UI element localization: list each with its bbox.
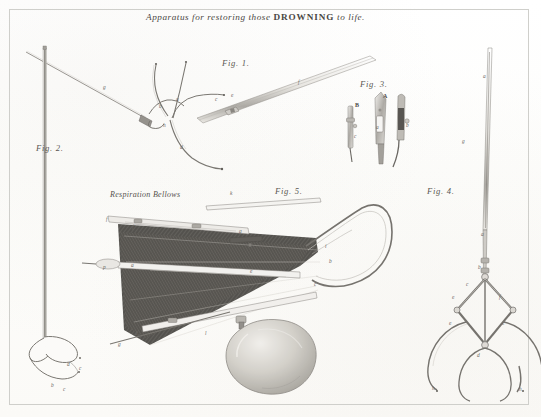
key-fig3-c: c bbox=[354, 133, 357, 139]
key-fig4-a2: a bbox=[481, 231, 484, 237]
fig2-artwork bbox=[29, 46, 81, 379]
key-fig4-e3: e bbox=[502, 320, 505, 326]
key-fig4-h2: h bbox=[519, 386, 522, 392]
key-fig5-f2: f bbox=[132, 224, 134, 230]
key-fig4-h1: h bbox=[432, 385, 435, 391]
plate-title-prefix: Apparatus for restoring those bbox=[146, 12, 273, 22]
figure-label-fig3: Fig. 3. bbox=[360, 79, 388, 89]
key-fig5-f1: f bbox=[106, 216, 108, 222]
key-fig2-d: d bbox=[67, 361, 70, 367]
plate-title-emphasis: DROWNING bbox=[273, 12, 334, 22]
key-fig1-e: e bbox=[231, 92, 234, 98]
key-fig4-c: c bbox=[466, 281, 469, 287]
key-fig3-B: B bbox=[355, 102, 359, 108]
key-fig4-b: b bbox=[478, 264, 481, 270]
key-fig2-c1: c bbox=[79, 365, 82, 371]
key-fig5-l: l bbox=[205, 330, 207, 336]
key-fig1-c: c bbox=[215, 96, 218, 102]
key-fig1-g: g bbox=[103, 84, 106, 90]
key-fig1-h: h bbox=[163, 122, 166, 128]
key-fig5-p: p bbox=[103, 264, 106, 270]
key-fig4-f: f bbox=[499, 294, 501, 300]
key-fig4-e1: e bbox=[452, 294, 455, 300]
plate-title-suffix: to life. bbox=[334, 12, 365, 22]
key-fig4-d: d bbox=[477, 352, 480, 358]
figure-label-fig5: Fig. 5. bbox=[275, 186, 303, 196]
key-fig4-a1: a bbox=[483, 73, 486, 79]
key-fig2-b: b bbox=[51, 382, 54, 388]
figure-label-fig2: Fig. 2. bbox=[36, 143, 64, 153]
key-fig5-e: e bbox=[250, 268, 253, 274]
plate-title: Apparatus for restoring those DROWNING t… bbox=[146, 12, 365, 22]
figure-label-fig4: Fig. 4. bbox=[427, 186, 455, 196]
key-fig1-b: b bbox=[159, 103, 162, 109]
key-fig3-a: a bbox=[376, 124, 379, 130]
key-fig2-c2: c bbox=[63, 386, 66, 392]
key-fig5-a: a bbox=[131, 262, 134, 268]
key-fig5-i: i bbox=[325, 243, 327, 249]
fig5-artwork bbox=[82, 198, 392, 394]
key-fig1-d: d bbox=[180, 144, 183, 150]
key-fig5-g2: g bbox=[118, 341, 121, 347]
key-fig5-c: c bbox=[314, 281, 317, 287]
key-fig1-a: a bbox=[176, 96, 179, 102]
key-fig4-e2: e bbox=[449, 320, 452, 326]
plate-artwork bbox=[0, 0, 541, 417]
key-fig5-d: d bbox=[135, 330, 138, 336]
caption-respiration-bellows: Respiration Bellows bbox=[110, 190, 180, 199]
key-fig5-g1: g bbox=[239, 228, 242, 234]
key-fig3-b: b bbox=[406, 122, 409, 128]
key-fig1-f: f bbox=[298, 79, 300, 85]
key-fig4-g: g bbox=[462, 138, 465, 144]
key-fig3-A: A bbox=[383, 93, 388, 99]
fig4-artwork bbox=[428, 48, 541, 401]
figure-label-fig1: Fig. 1. bbox=[222, 58, 250, 68]
key-fig5-k: k bbox=[230, 190, 233, 196]
key-fig5-b: b bbox=[329, 258, 332, 264]
fig1-artwork bbox=[26, 51, 376, 170]
engraving-plate: Apparatus for restoring those DROWNING t… bbox=[0, 0, 541, 417]
